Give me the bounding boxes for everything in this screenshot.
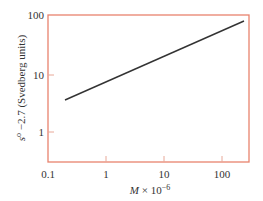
x-tick-label: 1: [103, 168, 109, 180]
y-tick-label: 100: [28, 9, 45, 21]
y-axis-label: so −2.7 (Svedberg units): [14, 34, 28, 141]
y-ticks: [48, 75, 54, 132]
x-tick-label: 10: [159, 168, 171, 180]
x-ticks: [106, 156, 222, 162]
x-tick-label: 100: [214, 168, 231, 180]
x-tick-label: 0.1: [41, 168, 55, 180]
y-tick-label: 10: [33, 69, 45, 81]
log-log-chart: 0.1 1 10 100 1 10 100 M × 10−6 so −2.7 (…: [0, 0, 263, 201]
data-line: [65, 21, 244, 100]
plot-frame: [48, 15, 249, 162]
y-tick-label: 1: [39, 126, 45, 138]
x-axis-label: M × 10−6: [129, 183, 170, 196]
